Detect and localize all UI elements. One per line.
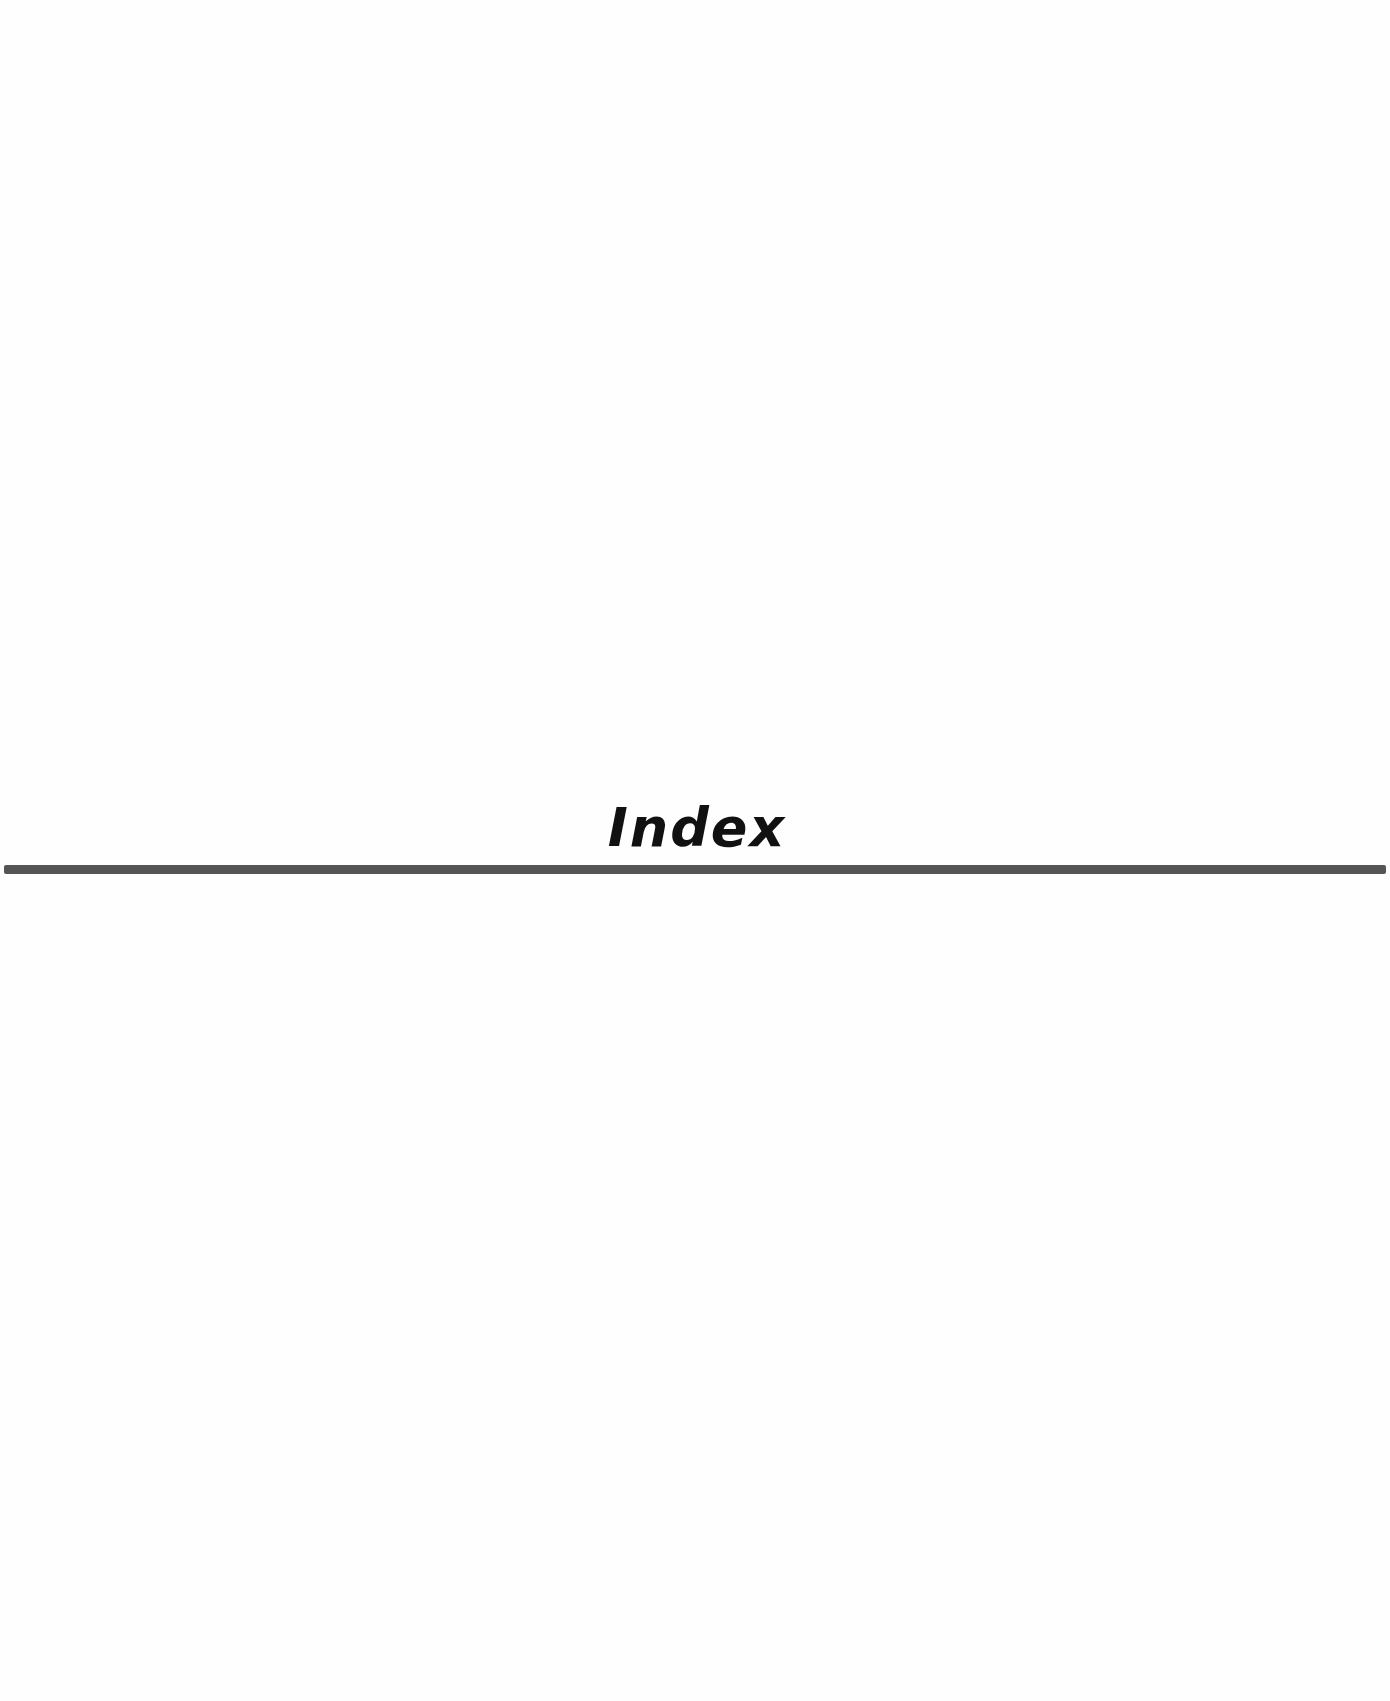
horizontal-rule bbox=[4, 865, 1386, 874]
document-page: Index bbox=[0, 0, 1390, 1701]
page-title: Index bbox=[0, 796, 1390, 860]
